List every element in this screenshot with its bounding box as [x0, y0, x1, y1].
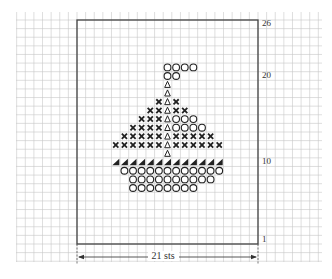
circle-symbol [130, 176, 137, 183]
open-triangle-symbol [165, 81, 171, 87]
cross-symbol [208, 142, 213, 147]
circle-symbol [138, 176, 145, 183]
circle-symbol [164, 73, 171, 80]
cross-symbol [199, 142, 204, 147]
cross-symbol [174, 142, 179, 147]
filled-triangle-symbol [198, 159, 205, 166]
cross-symbol [156, 142, 161, 147]
circle-symbol [164, 185, 171, 192]
circle-symbol [173, 64, 180, 71]
circle-symbol [121, 167, 128, 174]
filled-triangle-symbol [112, 159, 119, 166]
cross-symbol [182, 134, 187, 139]
cross-symbol [174, 99, 179, 104]
cross-symbol [148, 108, 153, 113]
circle-symbol [155, 167, 162, 174]
circle-symbol [199, 124, 206, 131]
cross-symbol [191, 142, 196, 147]
cross-symbol [217, 142, 222, 147]
circle-symbol [190, 124, 197, 131]
cross-symbol [182, 108, 187, 113]
circle-symbol [155, 185, 162, 192]
circle-symbol [181, 124, 188, 131]
row-label-1: 1 [262, 235, 267, 244]
open-triangle-symbol [165, 150, 171, 156]
filled-triangle-symbol [130, 159, 137, 166]
row-label-10: 10 [262, 157, 271, 166]
cross-symbol [139, 116, 144, 121]
circle-symbol [173, 73, 180, 80]
cross-symbol [130, 134, 135, 139]
row-label-26: 26 [262, 19, 271, 28]
cross-symbol [139, 125, 144, 130]
circle-symbol [199, 167, 206, 174]
circle-symbol [199, 176, 206, 183]
cross-symbol [130, 142, 135, 147]
circle-symbol [173, 124, 180, 131]
circle-symbol [130, 167, 137, 174]
circle-symbol [173, 116, 180, 123]
cross-symbol [148, 134, 153, 139]
circle-symbol [207, 167, 214, 174]
circle-symbol [173, 176, 180, 183]
filled-triangle-symbol [216, 159, 223, 166]
cross-symbol [208, 134, 213, 139]
cross-symbol [139, 142, 144, 147]
circle-symbol [173, 167, 180, 174]
open-triangle-symbol [165, 133, 171, 139]
cross-symbol [182, 142, 187, 147]
circle-symbol [164, 167, 171, 174]
cross-symbol [199, 134, 204, 139]
cross-symbol [148, 142, 153, 147]
cross-symbol [156, 116, 161, 121]
cross-symbol [139, 134, 144, 139]
circle-symbol [181, 167, 188, 174]
filled-triangle-symbol [147, 159, 154, 166]
open-triangle-symbol [165, 90, 171, 96]
cross-symbol [156, 99, 161, 104]
open-triangle-symbol [165, 107, 171, 113]
open-triangle-symbol [165, 99, 171, 105]
cross-symbol [122, 142, 127, 147]
circle-symbol [147, 167, 154, 174]
cross-symbol [122, 134, 127, 139]
knitting-chart [0, 0, 332, 279]
circle-symbol [190, 167, 197, 174]
filled-triangle-symbol [121, 159, 128, 166]
circle-symbol [155, 176, 162, 183]
cross-symbol [130, 125, 135, 130]
stitch-count-label: 21 sts [148, 251, 179, 261]
circle-symbol [190, 185, 197, 192]
open-triangle-symbol [165, 116, 171, 122]
arrow-left-icon [78, 255, 84, 259]
circle-symbol [181, 185, 188, 192]
filled-triangle-symbol [138, 159, 145, 166]
cross-symbol [148, 116, 153, 121]
circle-symbol [138, 185, 145, 192]
circle-symbol [173, 185, 180, 192]
row-label-20: 20 [262, 71, 271, 80]
cross-symbol [191, 134, 196, 139]
cross-symbol [156, 108, 161, 113]
circle-symbol [181, 176, 188, 183]
filled-triangle-symbol [173, 159, 180, 166]
circle-symbol [130, 185, 137, 192]
filled-triangle-symbol [190, 159, 197, 166]
circle-symbol [147, 176, 154, 183]
filled-triangle-symbol [207, 159, 214, 166]
circle-symbol [190, 64, 197, 71]
cross-symbol [156, 125, 161, 130]
circle-symbol [164, 64, 171, 71]
circle-symbol [138, 167, 145, 174]
circle-symbol [181, 64, 188, 71]
circle-symbol [164, 176, 171, 183]
cross-symbol [148, 125, 153, 130]
circle-symbol [181, 116, 188, 123]
cross-symbol [174, 134, 179, 139]
cross-symbol [113, 142, 118, 147]
circle-symbol [207, 176, 214, 183]
filled-triangle-symbol [181, 159, 188, 166]
open-triangle-symbol [165, 142, 171, 148]
circle-symbol [190, 176, 197, 183]
circle-symbol [216, 167, 223, 174]
